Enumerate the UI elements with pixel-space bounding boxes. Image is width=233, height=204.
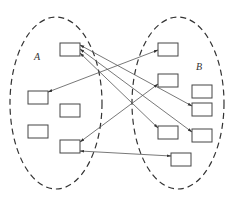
node-b1 xyxy=(158,43,178,56)
bipartite-mapping-diagram: AB xyxy=(0,0,233,204)
edge-b2-a5 xyxy=(80,84,158,142)
node-b4 xyxy=(192,103,212,116)
nodes-layer xyxy=(28,43,212,166)
node-a5 xyxy=(60,140,80,153)
node-a2 xyxy=(28,91,48,104)
edge-a1-b6 xyxy=(80,49,192,132)
set-b-label: B xyxy=(196,61,202,72)
node-a4 xyxy=(28,125,48,138)
node-b3 xyxy=(192,85,212,98)
node-a3 xyxy=(60,104,80,117)
node-b6 xyxy=(192,129,212,142)
set-a-outline xyxy=(10,17,102,189)
node-b7 xyxy=(171,153,191,166)
set-a-label: A xyxy=(33,51,41,62)
node-b5 xyxy=(158,126,178,139)
node-a1 xyxy=(60,43,80,56)
edge-a1-b5 xyxy=(80,53,158,128)
node-b2 xyxy=(158,74,178,87)
